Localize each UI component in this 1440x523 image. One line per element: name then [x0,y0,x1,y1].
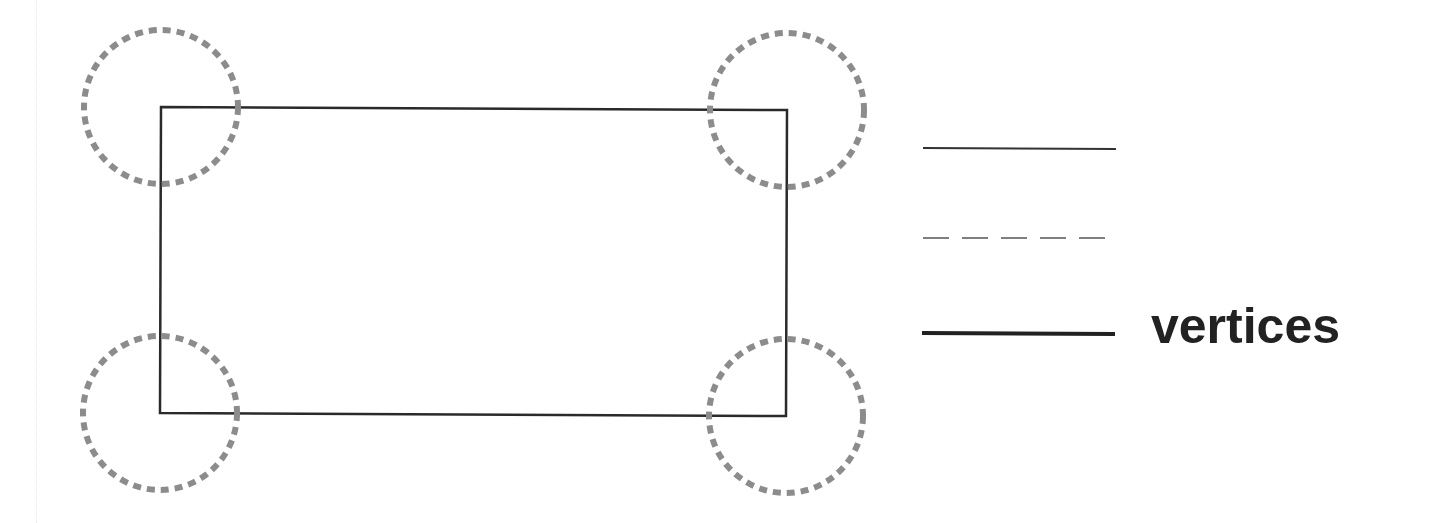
diagram-canvas [0,0,1440,523]
legend-line-solid [923,148,1116,149]
legend-label-vertices: vertices [1151,301,1340,351]
legend [922,148,1116,334]
legend-line-thick [922,333,1115,334]
vertex-markers [83,30,864,493]
rectangle-shape [160,107,787,416]
